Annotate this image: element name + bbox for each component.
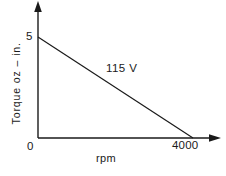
- y-axis-label: Torque oz – in.: [11, 31, 22, 135]
- x-axis-tick-label-4000: 4000: [172, 140, 198, 152]
- y-axis-tick-label-5: 5: [26, 31, 33, 43]
- torque-speed-figure: Torque oz – in. rpm 5 0 4000 115 V: [0, 0, 226, 176]
- origin-tick-label: 0: [27, 141, 34, 153]
- x-axis-label: rpm: [96, 153, 116, 164]
- x-axis-arrow-icon: [209, 134, 221, 142]
- series-annotation-115v: 115 V: [106, 63, 137, 75]
- y-axis-arrow-icon: [34, 1, 42, 12]
- series-line-115v: [38, 37, 193, 138]
